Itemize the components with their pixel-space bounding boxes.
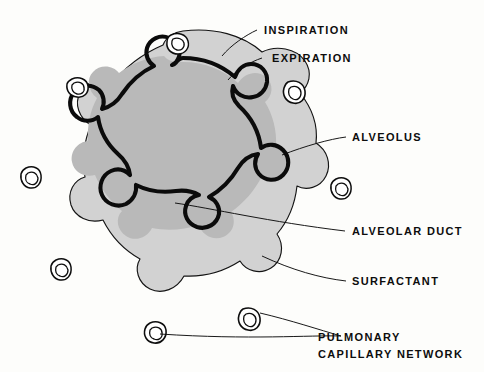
label-surfactant: SURFACTANT	[352, 274, 439, 288]
capillary-ring	[67, 78, 88, 97]
capillary-ring	[238, 308, 260, 330]
capillary-ring	[21, 167, 41, 188]
label-alveolar-duct: ALVEOLAR DUCT	[352, 224, 463, 238]
label-alveolus: ALVEOLUS	[352, 130, 422, 144]
alveolus-diagram-svg	[0, 0, 484, 372]
capillary-ring	[331, 178, 351, 199]
alveolus-diagram-figure: INSPIRATION EXPIRATION ALVEOLUS ALVEOLAR…	[0, 0, 484, 372]
label-pulmonary-line2: CAPILLARY NETWORK	[318, 347, 463, 362]
capillary-ring	[144, 322, 166, 343]
capillary-ring	[167, 34, 189, 54]
capillary-ring	[283, 81, 305, 103]
leader-capillary-left	[160, 334, 341, 337]
capillary-ring	[51, 259, 71, 280]
label-pulmonary-line1: PULMONARY	[318, 330, 401, 345]
label-expiration: EXPIRATION	[272, 51, 352, 65]
label-inspiration: INSPIRATION	[264, 23, 349, 37]
